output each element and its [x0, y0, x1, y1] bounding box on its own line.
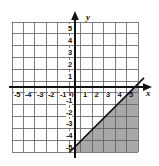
ytick-label-3: 3: [68, 48, 72, 57]
x-axis-label: x: [146, 88, 151, 98]
xtick-label-neg2: -2: [48, 90, 54, 99]
y-axis-label: y: [86, 12, 90, 22]
coordinate-plane-svg: [0, 0, 159, 166]
xtick-label-neg4: -4: [25, 90, 31, 99]
xtick-label-neg5: -5: [14, 90, 20, 99]
ytick-label-1: 1: [68, 72, 72, 81]
xtick-label-4: 4: [118, 90, 122, 99]
xtick-label-2: 2: [95, 90, 99, 99]
xtick-label-3: 3: [106, 90, 110, 99]
xtick-label-1: 1: [83, 90, 87, 99]
ytick-label-2: 2: [68, 60, 72, 69]
ytick-label-neg2: -2: [66, 108, 72, 117]
ytick-label-neg3: -3: [66, 119, 72, 128]
graph-figure: y x -5 -4 -3 -2 -1 0 1 2 3 4 5 1 2 3 4 5…: [0, 0, 159, 166]
ytick-label-neg4: -4: [66, 131, 72, 140]
y-axis-arrow-icon: [71, 11, 79, 20]
ytick-label-neg1: -1: [66, 96, 72, 105]
ytick-label-4: 4: [68, 36, 72, 45]
xtick-label-5: 5: [129, 90, 133, 99]
xtick-label-neg3: -3: [37, 90, 43, 99]
ytick-label-neg5: -5: [66, 143, 72, 152]
ytick-label-5: 5: [68, 24, 72, 33]
